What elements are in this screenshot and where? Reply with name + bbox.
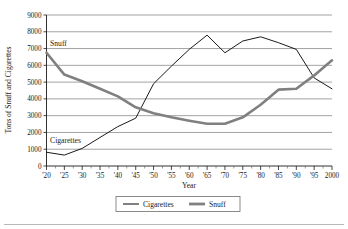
snuff-and-cigarettes-line-chart: 0100020003000400050006000700080009000 '2… bbox=[0, 0, 348, 229]
x-tick-label: '35 bbox=[96, 172, 105, 180]
x-tick-label: '90 bbox=[292, 172, 301, 180]
chart-background bbox=[0, 0, 348, 229]
x-tick-label: '25 bbox=[60, 172, 69, 180]
y-tick-label: 1000 bbox=[27, 146, 42, 154]
x-tick-label: '95 bbox=[310, 172, 319, 180]
x-tick-label: '20 bbox=[42, 172, 51, 180]
x-tick-label: '40 bbox=[114, 172, 123, 180]
x-tick-label: '30 bbox=[78, 172, 87, 180]
y-tick-label: 3000 bbox=[27, 112, 42, 120]
y-tick-label: 6000 bbox=[27, 62, 42, 70]
y-tick-label: 0 bbox=[38, 163, 42, 171]
series-annotation-cigarettes: Cigarettes bbox=[50, 136, 81, 145]
x-tick-label: '70 bbox=[221, 172, 230, 180]
x-tick-label: '80 bbox=[256, 172, 265, 180]
legend-label-cigarettes: Cigarettes bbox=[143, 200, 174, 209]
series-annotation-snuff: Snuff bbox=[50, 39, 67, 48]
x-axis-title: Year bbox=[182, 181, 196, 190]
y-tick-label: 2000 bbox=[27, 129, 42, 137]
chart-container: 0100020003000400050006000700080009000 '2… bbox=[0, 0, 348, 229]
x-tick-label: '60 bbox=[185, 172, 194, 180]
y-tick-label: 9000 bbox=[27, 12, 42, 20]
x-tick-label: '85 bbox=[274, 172, 283, 180]
legend-label-snuff: Snuff bbox=[209, 200, 226, 209]
x-tick-label: '75 bbox=[239, 172, 248, 180]
x-tick-label: '50 bbox=[149, 172, 158, 180]
x-tick-label: '55 bbox=[167, 172, 176, 180]
y-tick-label: 4000 bbox=[27, 95, 42, 103]
x-tick-label: '65 bbox=[203, 172, 212, 180]
y-tick-label: 7000 bbox=[27, 45, 42, 53]
x-tick-label: '45 bbox=[131, 172, 140, 180]
y-tick-label: 8000 bbox=[27, 28, 42, 36]
y-tick-label: 5000 bbox=[27, 79, 42, 87]
x-tick-label: 2000 bbox=[325, 172, 340, 180]
y-axis-title: Tons of Snuff and Cigarettes bbox=[4, 46, 13, 133]
